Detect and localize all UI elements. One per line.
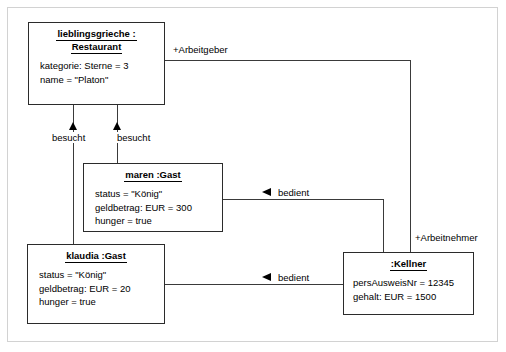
object-box-restaurant[interactable]: lieblingsgrieche : Restaurant kategorie:…: [28, 22, 165, 105]
attribute-row: kategorie: Sterne = 3: [40, 59, 164, 73]
triangle-up-icon-besucht-maren: [113, 122, 121, 130]
triangle-left-icon-bedient-maren: [262, 188, 271, 196]
object-title-line1-klaudia: klaudia :Gast: [65, 250, 127, 263]
object-attributes-klaudia: status = "König" geldbetrag: EUR = 20 hu…: [28, 263, 164, 309]
link-label-besucht-maren: besucht: [116, 132, 151, 143]
attribute-row: geldbetrag: EUR = 300: [95, 201, 222, 215]
link-line-bedient-klaudia: [165, 284, 343, 285]
object-title-restaurant: lieblingsgrieche : Restaurant: [29, 23, 164, 54]
attribute-row: hunger = true: [39, 295, 164, 309]
attribute-row: status = "König": [95, 187, 222, 201]
object-title-line1-kellner: :Kellner: [390, 258, 427, 271]
object-title-maren: maren :Gast: [84, 164, 222, 182]
object-box-klaudia[interactable]: klaudia :Gast status = "König" geldbetra…: [27, 244, 165, 324]
object-box-kellner[interactable]: :Kellner persAusweisNr = 12345 gehalt: E…: [343, 252, 474, 315]
object-title-kellner: :Kellner: [344, 253, 473, 271]
object-attributes-kellner: persAusweisNr = 12345 gehalt: EUR = 1500: [344, 271, 473, 303]
attribute-row: status = "König": [39, 268, 164, 282]
object-title-line1-maren: maren :Gast: [124, 169, 181, 182]
link-line-bedient-maren-horizontal: [223, 199, 384, 200]
attribute-row: persAusweisNr = 12345: [353, 276, 473, 290]
object-title-klaudia: klaudia :Gast: [28, 245, 164, 263]
triangle-left-icon-bedient-klaudia: [262, 273, 271, 281]
triangle-up-icon-besucht-klaudia: [69, 122, 77, 130]
link-line-bedient-maren-vertical: [383, 199, 384, 252]
link-label-bedient-maren: bedient: [277, 187, 310, 198]
attribute-row: hunger = true: [95, 214, 222, 228]
diagram-canvas: besucht besucht bedient bedient +Arbeitg…: [0, 0, 506, 352]
link-label-arbeitnehmer: +Arbeitnehmer: [414, 232, 479, 243]
object-box-maren[interactable]: maren :Gast status = "König" geldbetrag:…: [83, 163, 223, 232]
object-attributes-restaurant: kategorie: Sterne = 3 name = "Platon": [29, 54, 164, 86]
link-line-arbeitgeber-horizontal: [165, 60, 411, 61]
attribute-row: gehalt: EUR = 1500: [353, 290, 473, 304]
link-label-bedient-klaudia: bedient: [277, 272, 310, 283]
object-title-line2-restaurant: Restaurant: [71, 41, 123, 54]
attribute-row: name = "Platon": [40, 73, 164, 87]
attribute-row: geldbetrag: EUR = 20: [39, 282, 164, 296]
link-line-arbeitgeber-vertical: [410, 60, 411, 252]
link-label-arbeitgeber: +Arbeitgeber: [172, 44, 229, 55]
object-attributes-maren: status = "König" geldbetrag: EUR = 300 h…: [84, 182, 222, 228]
link-label-besucht-klaudia: besucht: [51, 132, 86, 143]
object-title-line1-restaurant: lieblingsgrieche :: [56, 28, 136, 41]
